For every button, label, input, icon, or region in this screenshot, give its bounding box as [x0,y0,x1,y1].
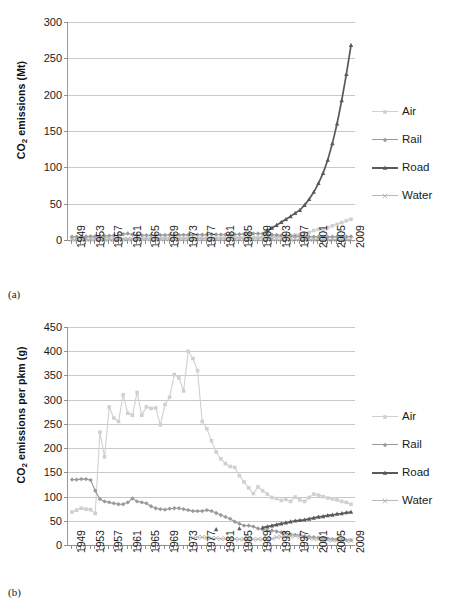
x-axis-tick [71,545,72,549]
legend-item-water[interactable]: Water [372,487,458,515]
legend-label: Road [402,162,430,174]
x-axis-tick [127,240,128,244]
x-axis-tick-label: 1993 [280,530,292,553]
x-axis-tick-label: 2001 [317,225,329,248]
x-axis-tick [238,240,239,244]
x-axis-tick [350,545,351,549]
x-axis-tick-label: 2005 [335,225,347,248]
legend-swatch-road-icon [372,467,398,479]
x-axis-tick-label: 1977 [205,225,217,248]
legend-item-air[interactable]: Air [372,98,458,126]
legend-item-rail[interactable]: Rail [372,431,458,459]
y-axis-tick-label: 100 [22,491,62,503]
y-axis-title-a-pre: CO [15,143,27,159]
x-axis-b: 1949195319571961196519691973197719811985… [67,545,355,550]
x-axis-tick [331,545,332,549]
x-axis-tick [201,240,202,244]
legend-swatch-rail-icon [372,439,398,451]
figure-panel-a: CO2 emissions (Mt) 050100150200250300 19… [0,0,458,305]
plot-area-a: 050100150200250300 [67,22,355,240]
x-axis-tick [164,240,165,244]
y-axis-tick-label: 300 [22,394,62,406]
legend-item-air[interactable]: Air [372,403,458,431]
x-axis-tick [127,545,128,549]
legend-item-water[interactable]: Water [372,182,458,210]
x-axis-tick-label: 1953 [94,530,106,553]
legend-item-road[interactable]: Road [372,154,458,182]
x-axis-tick [201,545,202,549]
x-axis-tick-label: 1977 [205,530,217,553]
x-axis-tick-label: 2009 [354,225,366,248]
x-axis-tick [276,545,277,549]
figure-panel-b: CO2 emissions per pkm (g) 05010015020025… [0,305,458,610]
y-axis-tick-label: 350 [22,369,62,381]
x-axis-tick [276,240,277,244]
x-axis-tick [313,240,314,244]
x-axis-tick-label: 1957 [112,530,124,553]
x-axis-tick-label: 2005 [335,530,347,553]
x-axis-tick [71,240,72,244]
x-axis-tick [238,545,239,549]
y-axis-tick-label: 150 [22,466,62,478]
x-axis-tick-label: 1989 [261,225,273,248]
x-axis-tick-label: 1961 [131,530,143,553]
legend-swatch-rail-icon [372,134,398,146]
legend-label: Rail [402,439,422,451]
legend-label: Road [402,467,430,479]
x-axis-tick-label: 1965 [149,530,161,553]
y-axis-title-a: CO2 emissions (Mt) [15,5,27,215]
x-axis-tick [257,545,258,549]
legend-label: Water [402,190,432,202]
legend-label: Water [402,495,432,507]
x-axis-tick-label: 1969 [168,530,180,553]
legend-item-rail[interactable]: Rail [372,126,458,154]
x-axis-tick-label: 1973 [187,530,199,553]
series-layer [68,22,355,240]
y-axis-title-a-sub: 2 [20,139,29,144]
x-axis-tick-label: 1953 [94,225,106,248]
x-axis-tick [294,545,295,549]
y-axis-tick-label: 450 [22,321,62,333]
x-axis-tick [220,240,221,244]
x-axis-tick-label: 1965 [149,225,161,248]
x-axis-tick [108,240,109,244]
y-axis-tick-label: 150 [22,125,62,137]
y-axis-tick-label: 50 [22,515,62,527]
x-axis-tick-label: 1997 [298,530,310,553]
legend-b: AirRailRoadWater [372,403,458,515]
x-axis-tick [313,545,314,549]
x-axis-tick-label: 1981 [224,225,236,248]
y-axis-tick-label: 200 [22,442,62,454]
x-axis-tick-label: 1997 [298,225,310,248]
y-axis-tick-label: 250 [22,418,62,430]
x-axis-tick-label: 1989 [261,530,273,553]
panel-caption-a: (a) [8,288,20,300]
y-axis-tick-label: 50 [22,198,62,210]
x-axis-tick [183,545,184,549]
series-road [265,43,353,233]
x-axis-tick-label: 1985 [242,225,254,248]
x-axis-a: 1949195319571961196519691973197719811985… [67,240,355,245]
x-axis-tick-label: 2001 [317,530,329,553]
x-axis-tick-label: 1973 [187,225,199,248]
y-axis-tick-label: 400 [22,345,62,357]
y-axis-tick-label: 300 [22,16,62,28]
x-axis-tick-label: 1949 [75,530,87,553]
series-layer [68,327,355,545]
legend-label: Air [402,411,416,423]
x-axis-tick [90,545,91,549]
legend-swatch-air-icon [372,106,398,118]
x-axis-tick-label: 1961 [131,225,143,248]
x-axis-tick [350,240,351,244]
y-axis-tick-label: 0 [22,234,62,246]
legend-label: Rail [402,134,422,146]
legend-a: AirRailRoadWater [372,98,458,210]
legend-item-road[interactable]: Road [372,459,458,487]
x-axis-tick-label: 1981 [224,530,236,553]
legend-swatch-air-icon [372,411,398,423]
y-axis-title-b: CO2 emissions per pkm (g) [15,310,27,520]
x-axis-tick [294,240,295,244]
x-axis-tick [257,240,258,244]
panel-caption-b: (b) [8,586,21,598]
x-axis-tick-label: 1969 [168,225,180,248]
